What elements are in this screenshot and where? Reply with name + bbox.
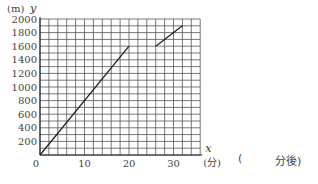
x-tick-label: 30 bbox=[167, 158, 180, 169]
y-tick-label: 1000 bbox=[12, 82, 37, 93]
y-tick-label: 1400 bbox=[12, 54, 37, 65]
distance-time-chart: 2004006008001000120014001600180020001020… bbox=[0, 0, 318, 184]
answer-suffix: 分後) bbox=[275, 152, 301, 168]
origin-label: 0 bbox=[33, 158, 39, 169]
y-tick-label: 1200 bbox=[12, 68, 37, 79]
graph-segment-2 bbox=[156, 26, 183, 46]
answer-open-paren: ( bbox=[238, 152, 242, 165]
x-tick-label: 10 bbox=[78, 158, 91, 169]
chart-labels: 2004006008001000120014001600180020001020… bbox=[7, 2, 221, 169]
chart-grid bbox=[40, 19, 200, 155]
y-unit-label: (m) bbox=[7, 3, 24, 14]
y-tick-label: 200 bbox=[18, 136, 37, 147]
y-tick-label: 400 bbox=[18, 122, 37, 133]
y-tick-label: 800 bbox=[18, 95, 37, 106]
x-axis-variable: x bbox=[205, 142, 212, 155]
x-unit-label: (分) bbox=[203, 157, 221, 168]
y-tick-label: 1800 bbox=[12, 27, 37, 38]
y-tick-label: 2000 bbox=[12, 14, 37, 25]
y-tick-label: 600 bbox=[18, 109, 37, 120]
y-axis-variable: y bbox=[29, 2, 37, 15]
y-tick-label: 1600 bbox=[12, 41, 37, 52]
x-tick-label: 20 bbox=[123, 158, 136, 169]
